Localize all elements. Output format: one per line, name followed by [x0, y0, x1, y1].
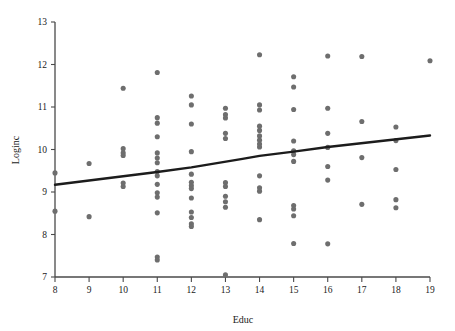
y-axis: 78910111213: [38, 17, 56, 282]
y-tick-label: 13: [38, 17, 48, 27]
data-point: [223, 184, 228, 189]
data-point: [223, 194, 228, 199]
data-point: [393, 197, 398, 202]
data-point: [189, 195, 194, 200]
data-point: [121, 86, 126, 91]
data-point: [325, 164, 330, 169]
data-point: [359, 155, 364, 160]
y-tick-label: 8: [42, 230, 47, 240]
data-point: [291, 138, 296, 143]
data-point: [223, 205, 228, 210]
regression-line-layer: [55, 135, 430, 184]
x-axis: 8910111213141516171819: [53, 277, 435, 295]
x-tick-label: 13: [221, 285, 231, 295]
data-point: [223, 116, 228, 121]
data-point: [87, 161, 92, 166]
regression-line: [55, 135, 430, 184]
x-tick-label: 16: [323, 285, 333, 295]
plot-canvas: 78910111213 8910111213141516171819 Educ …: [0, 0, 455, 331]
x-tick-label: 11: [153, 285, 162, 295]
data-point: [257, 107, 262, 112]
data-point: [325, 106, 330, 111]
y-tick-label: 12: [38, 60, 48, 70]
data-point: [189, 172, 194, 177]
data-point: [52, 209, 57, 214]
data-point: [257, 189, 262, 194]
x-tick-label: 18: [391, 285, 401, 295]
data-point: [155, 134, 160, 139]
x-tick-label: 14: [255, 285, 265, 295]
data-point: [291, 213, 296, 218]
data-point: [155, 160, 160, 165]
y-tick-label: 10: [38, 145, 48, 155]
data-point: [359, 54, 364, 59]
data-point: [393, 167, 398, 172]
y-tick-label: 11: [38, 102, 47, 112]
data-point: [87, 214, 92, 219]
data-point: [121, 153, 126, 158]
data-point: [257, 102, 262, 107]
data-point: [223, 199, 228, 204]
y-tick-label: 7: [42, 272, 47, 282]
data-point: [257, 217, 262, 222]
data-point: [155, 155, 160, 160]
data-point: [121, 184, 126, 189]
y-axis-title: Loginc: [10, 135, 21, 164]
data-point: [325, 53, 330, 58]
data-point: [223, 136, 228, 141]
data-point: [155, 182, 160, 187]
data-point: [325, 241, 330, 246]
data-point: [223, 131, 228, 136]
data-point: [189, 102, 194, 107]
data-point: [393, 124, 398, 129]
data-point: [257, 173, 262, 178]
data-point: [359, 202, 364, 207]
data-point: [155, 121, 160, 126]
data-point: [325, 131, 330, 136]
data-point: [223, 272, 228, 277]
data-point: [291, 241, 296, 246]
data-point: [291, 159, 296, 164]
data-point: [189, 93, 194, 98]
x-tick-label: 17: [357, 285, 367, 295]
data-point: [291, 84, 296, 89]
data-point: [291, 206, 296, 211]
data-point: [155, 115, 160, 120]
x-tick-label: 8: [53, 285, 58, 295]
x-tick-label: 10: [118, 285, 128, 295]
data-point: [155, 150, 160, 155]
y-tick-label: 9: [42, 187, 47, 197]
data-point: [155, 257, 160, 262]
data-point: [189, 224, 194, 229]
data-point: [52, 170, 57, 175]
data-point: [223, 106, 228, 111]
data-point: [291, 74, 296, 79]
data-point: [257, 128, 262, 133]
data-point: [189, 209, 194, 214]
data-point: [189, 215, 194, 220]
data-point: [155, 195, 160, 200]
data-point: [155, 70, 160, 75]
data-point: [189, 186, 194, 191]
data-point: [189, 121, 194, 126]
x-tick-label: 19: [425, 285, 435, 295]
x-tick-label: 12: [187, 285, 197, 295]
data-point: [359, 119, 364, 124]
data-point: [155, 173, 160, 178]
x-tick-label: 15: [289, 285, 299, 295]
x-axis-title: Educ: [233, 314, 254, 325]
data-point: [257, 144, 262, 149]
data-points-layer: [52, 52, 432, 277]
data-point: [257, 52, 262, 57]
data-point: [325, 178, 330, 183]
x-tick-label: 9: [87, 285, 92, 295]
data-point: [155, 210, 160, 215]
data-point: [393, 205, 398, 210]
data-point: [189, 149, 194, 154]
scatter-chart: 78910111213 8910111213141516171819 Educ …: [0, 0, 455, 331]
data-point: [427, 58, 432, 63]
data-point: [291, 107, 296, 112]
